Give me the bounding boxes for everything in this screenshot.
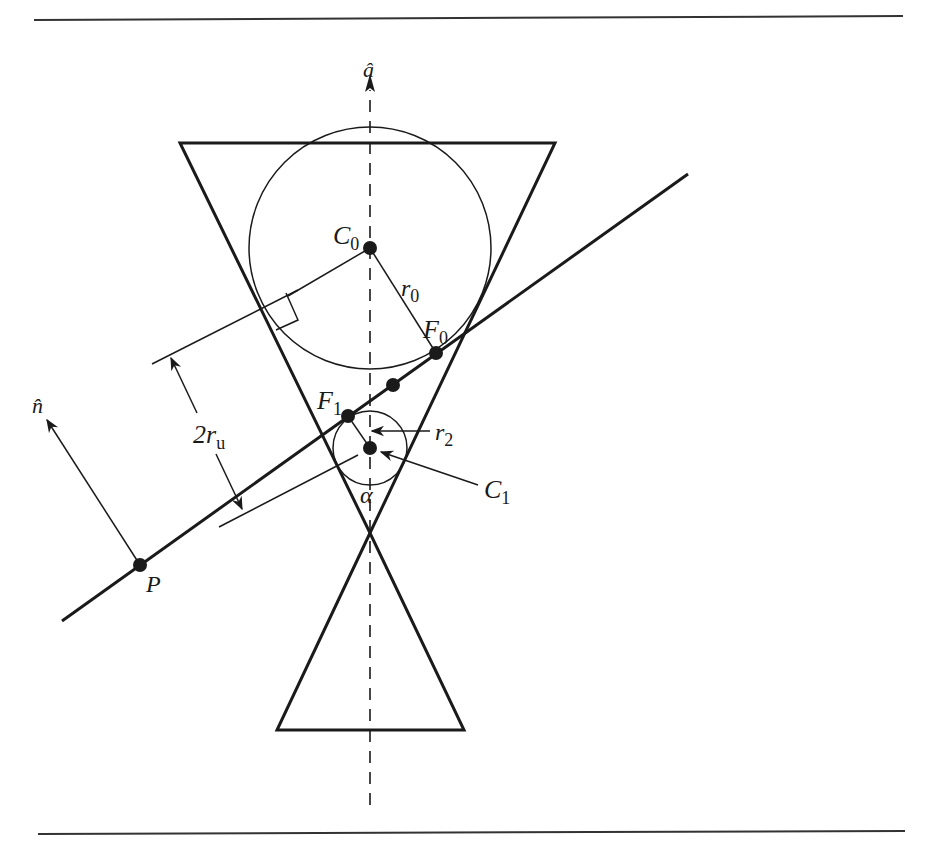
label-c1: C1 bbox=[484, 475, 510, 508]
right-angle-mark bbox=[276, 293, 298, 330]
label-2ru: 2ru bbox=[193, 420, 225, 453]
label-p: P bbox=[145, 571, 161, 597]
normal-vector bbox=[47, 420, 140, 565]
cone-sphere-diagram: â n̂ P C0 r0 F0 F1 r2 C1 α 2ru bbox=[0, 0, 926, 865]
point-c0 bbox=[363, 241, 377, 255]
label-normal: n̂ bbox=[32, 393, 43, 418]
point-c1 bbox=[363, 441, 377, 455]
plane-line bbox=[62, 174, 688, 621]
lower-offset-line bbox=[219, 455, 358, 527]
point-f0 bbox=[429, 346, 443, 360]
label-f0: F0 bbox=[422, 315, 448, 348]
upper-offset-line bbox=[152, 290, 298, 364]
top-rule bbox=[34, 16, 903, 20]
label-axis: â bbox=[363, 57, 374, 82]
dim-arrow-upper bbox=[171, 358, 197, 413]
label-r2: r2 bbox=[435, 419, 453, 450]
point-f1 bbox=[341, 409, 355, 423]
bottom-rule bbox=[38, 831, 905, 834]
point-p bbox=[133, 558, 147, 572]
label-f1: F1 bbox=[316, 386, 342, 419]
label-alpha: α bbox=[360, 482, 373, 508]
c0-perpendicular bbox=[288, 248, 370, 296]
label-c0: C0 bbox=[333, 221, 359, 254]
point-mid bbox=[386, 378, 400, 392]
